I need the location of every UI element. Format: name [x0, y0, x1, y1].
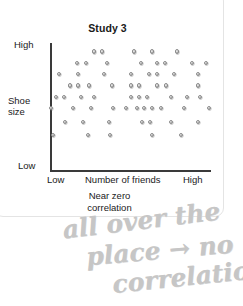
scatter-point: [105, 61, 109, 65]
scatter-point: [71, 106, 75, 110]
scatter-point: [137, 95, 141, 99]
scatter-point: [57, 72, 61, 76]
scatter-point: [108, 133, 112, 137]
scatter-point: [155, 83, 159, 87]
x-axis-tick-low: Low: [47, 174, 64, 185]
scatter-point: [111, 106, 115, 110]
scatter-point: [135, 106, 139, 110]
scatter-point: [155, 72, 159, 76]
scatter-point: [172, 72, 176, 76]
scatter-point: [137, 83, 141, 87]
scatter-point: [196, 83, 200, 87]
scatter-point: [132, 49, 136, 53]
scatter-point: [169, 95, 173, 99]
scatter-point: [198, 95, 202, 99]
scatter-point: [129, 72, 133, 76]
scatter-point: [179, 133, 183, 137]
scatter-point: [51, 133, 55, 137]
y-axis-title-line2: size: [8, 106, 25, 117]
scatter-point: [155, 61, 159, 65]
scatter-point: [49, 106, 53, 110]
chart-caption: Near zero correlation: [0, 190, 231, 213]
scatter-point: [150, 133, 154, 137]
chart-caption-line2: correlation: [87, 202, 131, 213]
scatter-point: [76, 83, 80, 87]
scatter-point: [190, 61, 194, 65]
scatter-point: [185, 95, 189, 99]
scatter-point: [147, 72, 151, 76]
scatter-point: [175, 49, 179, 53]
chart-caption-line1: Near zero: [89, 190, 131, 201]
scatter-point: [86, 133, 90, 137]
scatter-point: [54, 95, 58, 99]
scatter-point: [207, 106, 211, 110]
x-axis-line: [50, 170, 211, 172]
scatter-point: [87, 83, 91, 87]
x-axis-title: Number of friends: [85, 174, 161, 185]
scatter-point: [79, 95, 83, 99]
scatter-point: [107, 120, 111, 124]
scatter-point: [92, 49, 96, 53]
scatter-point: [140, 120, 144, 124]
scatter-point: [150, 106, 154, 110]
scatter-point: [110, 83, 114, 87]
scatter-point: [129, 83, 133, 87]
scatter-point: [196, 72, 200, 76]
x-axis-tick-high: High: [183, 174, 203, 185]
scatter-point: [139, 61, 143, 65]
scatter-point: [150, 49, 154, 53]
scatter-plot-area: [51, 44, 211, 170]
scatter-point: [145, 95, 149, 99]
scatter-point: [124, 106, 128, 110]
scatter-point: [164, 83, 168, 87]
y-axis-tick-low: Low: [18, 160, 35, 171]
scatter-point: [89, 106, 93, 110]
y-axis-tick-high: High: [14, 39, 34, 50]
scatter-point: [76, 72, 80, 76]
y-axis-title: Shoesize: [8, 95, 30, 117]
scatter-point: [92, 95, 96, 99]
scatter-point: [159, 106, 163, 110]
scatter-point: [196, 120, 200, 124]
scatter-point: [62, 95, 66, 99]
scatter-point: [102, 72, 106, 76]
scatter-point: [204, 61, 208, 65]
scatter-point: [169, 120, 173, 124]
scatter-point: [182, 106, 186, 110]
y-axis-title-line1: Shoe: [8, 95, 30, 106]
scatter-point: [100, 49, 104, 53]
scatter-point: [84, 61, 88, 65]
scatter-point: [129, 95, 133, 99]
scatter-point: [148, 120, 152, 124]
handwriting-line-3: correlation: [111, 254, 243, 299]
scatter-point: [142, 106, 146, 110]
chart-title: Study 3: [0, 22, 229, 34]
scatter-point: [68, 83, 72, 87]
scatter-point: [163, 61, 167, 65]
scatter-point: [63, 120, 67, 124]
handwriting-line-2: place → no: [85, 230, 234, 272]
scatter-point: [75, 61, 79, 65]
scatter-point: [81, 120, 85, 124]
